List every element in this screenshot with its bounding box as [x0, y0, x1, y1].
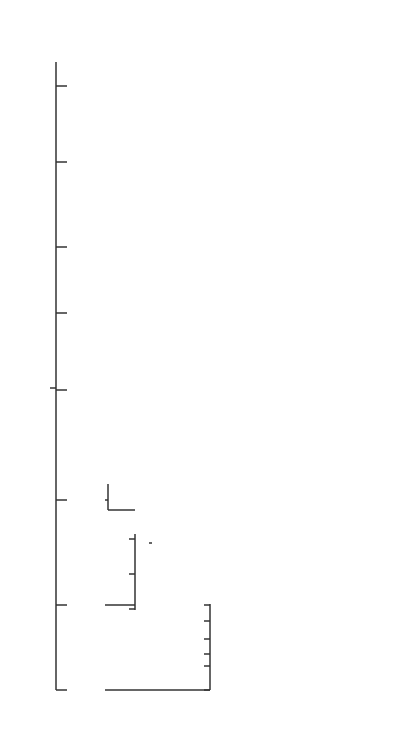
org-chart: [0, 0, 419, 744]
connector-lines: [0, 0, 419, 744]
